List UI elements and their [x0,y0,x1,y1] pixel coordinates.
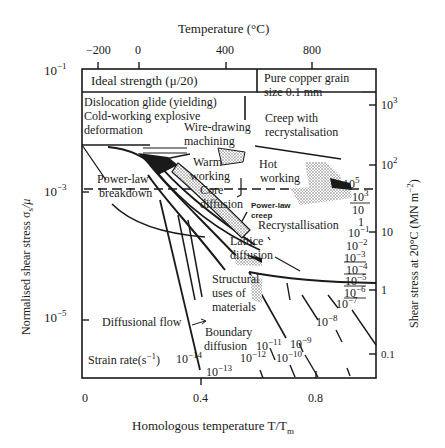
warm-working-label: Warm [193,155,223,169]
contour-label: 10−10 [276,349,303,365]
right-tick-label: 102 [381,155,398,172]
structural-uses-label: uses of [212,286,246,300]
core-diffusion-label: Core [200,183,223,197]
wire-drawing-label: Wire-drawing [184,120,251,134]
deformation-map-chart: Temperature (°C) −200 0 400 800 10−1 10−… [0,0,445,448]
lattice-diffusion-label: diffusion [230,248,273,262]
contour-label: 10−13 [206,363,233,379]
top-tick-label: 800 [303,43,321,57]
right-axis-label: Shear stress at 20°C (MN m−2) [405,179,421,328]
creep-recrystallisation-label: recrystalisation [265,125,338,139]
cold-working-label: Cold-working explosive [84,109,200,123]
warm-working-label: working [190,169,230,183]
power-law-creep-label: Power-law [251,201,291,210]
boundary-diffusion-label: Boundary [205,325,252,339]
top-tick-label: 0 [135,43,141,57]
top-axis-label: Temperature (°C) [178,21,269,36]
right-tick-label: 103 [381,95,398,112]
left-tick-label: 10−5 [44,308,67,325]
left-axis: 10−1 10−3 10−5 Normalised shear stress σ… [19,61,89,335]
bottom-axis: 0 0.4 0.8 Homologous temperature T/Tm [82,371,323,436]
top-tick-label: 400 [216,43,234,57]
lattice-diffusion-label: Lattice [230,234,263,248]
right-tick-label: 10 [381,225,393,239]
bottom-tick-label: 0.8 [308,391,323,405]
strain-rate-label: Strain rate(s−1) [88,351,160,367]
core-diffusion-label: diffusion [200,197,243,211]
power-law-breakdown-label: Power-law [97,172,149,186]
left-axis-label: Normalised shear stress σs/μ [19,199,35,335]
top-tick-label: −200 [86,43,111,57]
wire-drawing-label: machining [184,134,235,148]
contour-label: 10−8 [316,313,338,329]
top-axis: Temperature (°C) −200 0 400 800 [86,21,321,69]
creep-recrystallisation-label: Creep with [265,111,318,125]
power-law-breakdown-label: breakdown [99,186,152,200]
diffusional-flow-label: Diffusional flow [102,315,182,329]
right-tick-label: 1 [381,283,387,297]
recrystallisation-label: Recrystallisation [258,218,339,232]
hot-working-label: working [260,171,300,185]
left-tick-label: 10−3 [44,182,67,199]
bottom-tick-label: 0.4 [193,391,208,405]
material-label: size 0.1 mm [264,85,323,99]
contour-label: 103 [352,188,369,204]
left-tick-label: 10−1 [44,61,67,78]
ideal-strength-label: Ideal strength (μ/20) [91,73,198,88]
bottom-tick-label: 0 [82,391,88,405]
structural-uses-label: materials [212,300,256,314]
bottom-axis-label: Homologous temperature T/Tm [132,418,294,436]
glide-label: Dislocation glide (yielding) [84,95,217,109]
structural-uses-label: Structural [212,272,260,286]
material-label: Pure copper grain [264,71,349,85]
contour-label: 10−9 [290,335,312,351]
hot-working-label: Hot [259,157,278,171]
right-tick-label: 0.1 [381,348,395,360]
cold-working-label: deformation [84,123,143,137]
